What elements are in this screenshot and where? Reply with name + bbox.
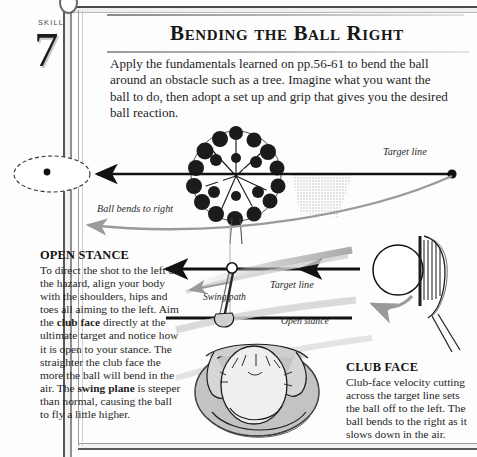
label-ball-bends-to-right: Ball bends to right bbox=[97, 203, 173, 214]
club-head bbox=[214, 313, 233, 327]
label-target-line-mid: Target line bbox=[270, 279, 314, 290]
club-face-column: CLUB FACE Club-face velocity cutting acr… bbox=[346, 360, 474, 441]
open-stance-column: OPEN STANCE To direct the shot to the le… bbox=[40, 248, 183, 421]
label-open-stance: Open stance bbox=[281, 315, 329, 326]
hole-icon bbox=[44, 169, 51, 176]
open-stance-body: To direct the shot to the left of the ha… bbox=[40, 264, 183, 421]
golfer-overhead bbox=[195, 344, 319, 437]
page-sheet: SKILL 7 Bending the Ball Right Apply the… bbox=[0, 0, 477, 457]
club-face-heading: CLUB FACE bbox=[346, 360, 474, 375]
open-stance-heading: OPEN STANCE bbox=[40, 248, 183, 263]
open-stance-bold-swing-plane: swing plane bbox=[77, 382, 134, 394]
label-target-line-top: Target line bbox=[383, 146, 427, 157]
open-stance-bold-club-face: club face bbox=[57, 316, 100, 328]
club-face-body: Club-face velocity cutting across the ta… bbox=[346, 376, 474, 441]
label-swing-path: Swing path bbox=[203, 291, 246, 302]
putting-green bbox=[14, 156, 90, 192]
clubface-cut-arrow bbox=[372, 296, 412, 307]
ball-and-clubface bbox=[372, 236, 460, 352]
golf-ball bbox=[373, 245, 423, 295]
grip-marker bbox=[227, 263, 237, 273]
